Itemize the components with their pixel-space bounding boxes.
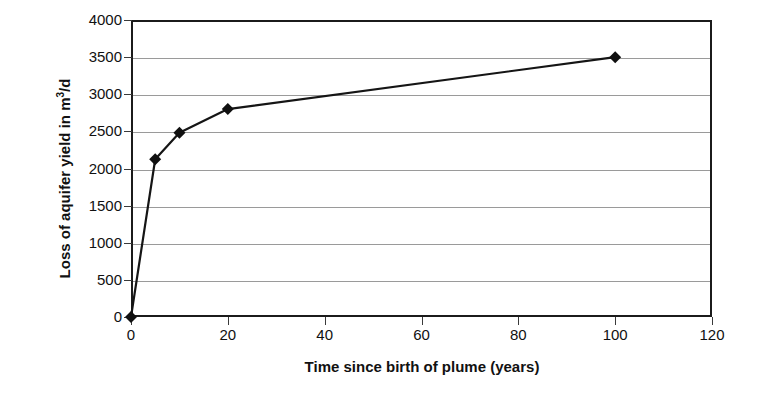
y-tick-mark (124, 169, 132, 170)
chart-figure: Loss of aquifer yield in m3/d 0500100015… (0, 0, 763, 405)
y-tick-label: 1000 (56, 235, 122, 250)
x-tick-mark (615, 317, 616, 325)
y-tick-mark (124, 206, 132, 207)
x-tick-mark (131, 317, 132, 325)
y-tick-label: 4000 (56, 12, 122, 27)
x-tick-label: 60 (392, 327, 452, 342)
y-tick-mark (124, 243, 132, 244)
y-tick-mark (124, 20, 132, 21)
y-tick-label: 2000 (56, 161, 122, 176)
y-tick-label: 3000 (56, 86, 122, 101)
plot-area (131, 20, 712, 317)
y-tick-mark (124, 94, 132, 95)
x-tick-label: 100 (585, 327, 645, 342)
x-tick-label: 20 (198, 327, 258, 342)
gridline-horizontal (133, 244, 710, 245)
x-tick-label: 0 (101, 327, 161, 342)
x-tick-mark (422, 317, 423, 325)
y-tick-mark (124, 280, 132, 281)
gridline-horizontal (133, 170, 710, 171)
y-tick-label: 500 (56, 272, 122, 287)
y-tick-label: 3500 (56, 49, 122, 64)
y-tick-mark (124, 57, 132, 58)
x-tick-mark (712, 317, 713, 325)
gridline-horizontal (133, 95, 710, 96)
y-tick-mark (124, 131, 132, 132)
y-tick-label: 0 (56, 309, 122, 324)
y-tick-label: 2500 (56, 123, 122, 138)
x-tick-mark (325, 317, 326, 325)
x-axis-title: Time since birth of plume (years) (131, 358, 713, 375)
x-tick-label: 80 (488, 327, 548, 342)
x-tick-label: 40 (295, 327, 355, 342)
x-tick-mark (518, 317, 519, 325)
gridline-horizontal (133, 207, 710, 208)
x-tick-mark (228, 317, 229, 325)
gridline-horizontal (133, 58, 710, 59)
x-tick-label: 120 (682, 327, 742, 342)
gridline-horizontal (133, 132, 710, 133)
y-tick-label: 1500 (56, 198, 122, 213)
gridline-horizontal (133, 281, 710, 282)
